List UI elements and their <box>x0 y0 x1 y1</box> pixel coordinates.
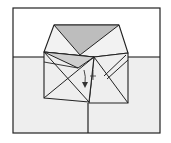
origami-diagram <box>0 0 171 143</box>
